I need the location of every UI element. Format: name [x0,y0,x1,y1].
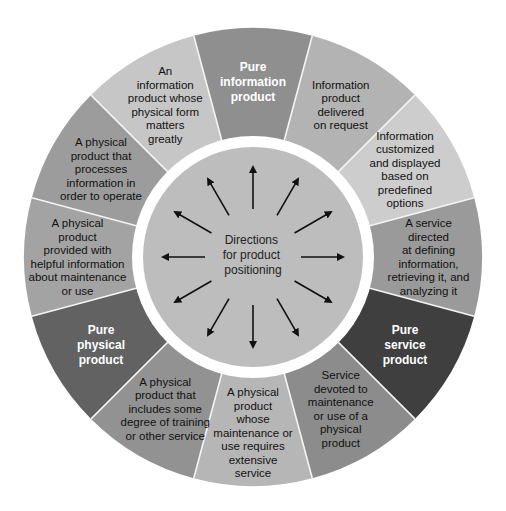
segment-label-line: information, [398,258,458,270]
segment-label-line: options [386,197,423,209]
segment-label-line: physical [320,423,362,435]
segment-label-line: greatly [148,133,183,145]
center-label-line: for product [223,248,281,262]
segment-label-line: degree of training [120,416,210,428]
segment-label-line: product [231,90,276,104]
segment-label-line: Information [312,79,370,91]
segment-label-line: maintenance [308,396,374,408]
segment-label-line: information [220,75,286,89]
center-label: Directions for product positioning [223,233,284,277]
segment-label-line: product [322,92,361,104]
segment-label-line: processes [75,163,128,175]
segment-label-line: information [137,79,194,91]
segment-label-line: order to operate [60,190,142,202]
segment-label-line: Information [376,130,434,142]
segment-label-line: product [322,437,361,449]
segment-label-line: product [234,400,273,412]
segment-label-line: product that [135,389,197,401]
segment-label-line: physical [77,338,125,352]
segment-label-line: product whose [128,92,203,104]
segment-label-line: physical form [131,106,199,118]
segment-label-line: about maintenance [29,271,127,283]
segment-label-line: Pure [88,323,115,337]
segment-label-line: at defining [402,244,455,256]
segment-label-line: A physical [52,217,104,229]
segment-label-line: on request [314,119,369,131]
segment-label-line: A service [405,217,452,229]
segment-label-line: provided with [44,244,112,256]
segment-label-line: product [79,353,124,367]
segment-label-line: devoted to [314,383,368,395]
segment-label-line: maintenance or [213,427,292,439]
segment-label: Informationproductdeliveredon request [312,79,370,132]
segment-label-line: product [58,231,97,243]
segment-label-line: matters [146,119,185,131]
segment-label-line: or use [62,285,94,297]
segment-label-line: retrieving it, and [388,271,470,283]
center-label-line: Directions [225,233,278,247]
product-positioning-wheel: PureinformationproductInformationproduct… [0,0,506,511]
segment-label-line: product that [71,150,133,162]
segment-label-line: A physical [75,136,127,148]
segment-label-line: delivered [317,106,364,118]
segment-label-line: and displayed [369,157,440,169]
segment-label-line: analyzing it [400,285,458,297]
segment-label-line: A physical [227,386,279,398]
segment-label-line: service [235,467,271,479]
segment-label-line: predefined [378,184,432,196]
segment-label-line: or use of a [314,410,369,422]
segment-label-line: Service [322,369,360,381]
segment-label-line: directed [408,231,449,243]
segment-label-line: customized [376,143,434,155]
segment-label-line: An [158,65,172,77]
segment-label-line: information in [66,177,135,189]
segment-label-line: A physical [139,376,191,388]
segment-label-line: extensive [229,454,278,466]
segment-label-line: Pure [392,323,419,337]
segment-label-line: whose [235,413,269,425]
segment-label-line: Pure [240,60,267,74]
segment-label-line: based on [381,170,428,182]
center-label-line: positioning [224,263,281,277]
segment-label-line: use requires [221,440,285,452]
segment-label-line: service [384,338,426,352]
segment-label-line: includes some [128,403,202,415]
segment-label-line: product [383,353,428,367]
segment-label-line: helpful information [31,258,125,270]
segment-label-line: or other service [126,430,205,442]
